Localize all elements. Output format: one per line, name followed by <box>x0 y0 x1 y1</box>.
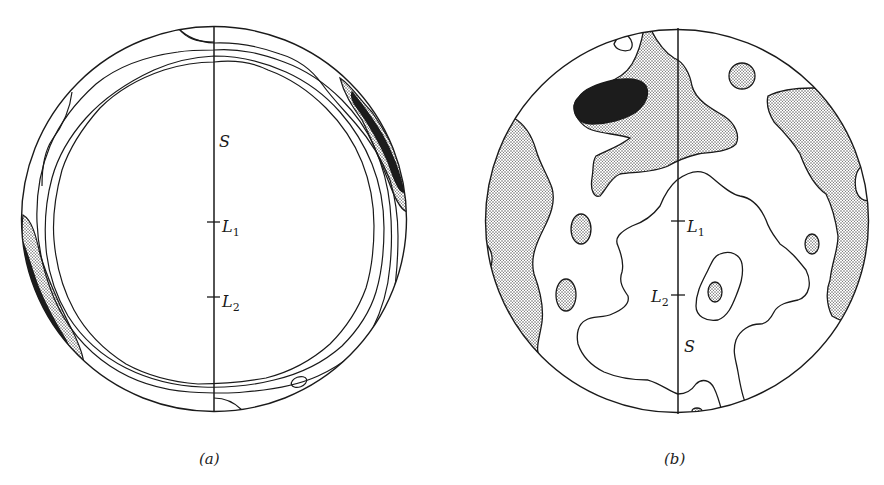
label-l2-b: L2 <box>650 287 669 309</box>
contour-bottom-notch <box>214 398 242 410</box>
caption-b: (b) <box>664 450 685 468</box>
island-1 <box>729 63 755 89</box>
small-closed-contour <box>290 375 308 390</box>
contour-outer-1 <box>179 29 398 346</box>
label-l2-a: L2 <box>221 292 240 314</box>
contour-top-notch <box>179 29 214 42</box>
density-region-lower-left <box>22 215 84 366</box>
contour-central-left <box>577 180 722 412</box>
density-region-right-band <box>767 88 870 325</box>
contour-left-edge <box>42 92 72 186</box>
caption-a: (a) <box>199 450 220 468</box>
panel-a: S L1 L2 <box>22 27 408 413</box>
island-3 <box>556 279 576 311</box>
contour-right-lower <box>356 346 374 376</box>
label-l1-b: L1 <box>686 217 705 239</box>
panel-b: L1 L2 S <box>470 28 870 414</box>
density-max-upper-right <box>351 92 404 192</box>
label-l1-a: L1 <box>221 217 240 239</box>
figure-canvas: S L1 L2 <box>0 0 884 485</box>
island-4 <box>805 234 819 254</box>
contour-central <box>677 172 809 404</box>
island-5 <box>708 282 722 302</box>
island-2 <box>571 214 591 244</box>
label-s-b: S <box>684 337 695 356</box>
label-s-a: S <box>219 132 230 151</box>
pole-figure-diagram: S L1 L2 <box>0 0 884 485</box>
